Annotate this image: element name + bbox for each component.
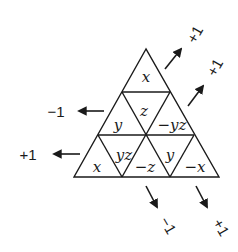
arrow-label: −1: [157, 214, 180, 237]
arrow-up-right-icon: [165, 49, 181, 69]
left-arrows: −1 +1: [19, 103, 104, 163]
cell-label: −yz: [158, 116, 187, 134]
arrow-down-right-icon: [196, 186, 207, 207]
triangle-diagram: x y z −yz x yz −z y −x −1 +1 +1 +1 −1 +1: [0, 0, 238, 252]
cell-label: −x: [184, 158, 206, 176]
arrow-down-right-icon: [146, 186, 157, 207]
arrow-label: +1: [183, 23, 206, 46]
upper-right-arrows: +1 +1: [165, 23, 226, 106]
arrow-label: +1: [203, 56, 226, 79]
cell-label: y: [113, 116, 123, 134]
cell-label: y: [165, 146, 175, 164]
arrow-label: +1: [210, 216, 233, 239]
cell-labels: x y z −yz x yz −z y −x: [93, 68, 206, 176]
arrow-up-right-icon: [188, 86, 203, 106]
arrow-label: −1: [47, 103, 64, 120]
lower-right-arrows: −1 +1: [146, 186, 233, 239]
cell-label: −z: [135, 158, 156, 176]
cell-label: x: [93, 158, 102, 176]
cell-label: z: [139, 102, 148, 120]
cell-label: x: [142, 68, 151, 86]
cell-label: yz: [115, 146, 132, 164]
arrow-label: +1: [19, 146, 36, 163]
